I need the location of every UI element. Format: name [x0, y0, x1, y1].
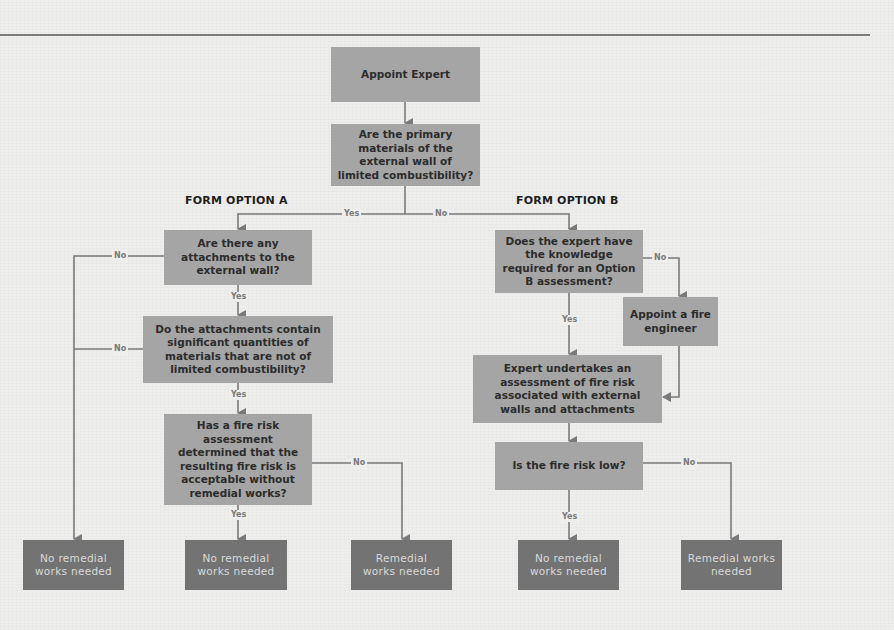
node-label: No remedial works needed — [31, 552, 116, 579]
node-a-fire-risk-assessment: Has a fire risk assessment determined th… — [164, 414, 312, 505]
edge-label-a-assessment-no: No — [351, 458, 367, 468]
edge-label-a-attachments-no: No — [112, 251, 128, 261]
node-label: Appoint a fire engineer — [629, 308, 712, 335]
node-b-outcome-no-remedial: No remedial works needed — [518, 540, 619, 590]
edge-label-b-knowledge-yes: Yes — [560, 315, 579, 325]
node-label: Is the fire risk low? — [512, 459, 625, 473]
node-label: No remedial works needed — [193, 552, 279, 579]
edge-label-b-knowledge-no: No — [652, 253, 668, 263]
node-a-attachments-materials: Do the attachments contain significant q… — [143, 316, 333, 383]
node-primary-materials: Are the primary materials of the externa… — [331, 124, 480, 186]
edge-label-a-attachments-yes: Yes — [229, 292, 248, 302]
node-label: Do the attachments contain significant q… — [149, 323, 327, 377]
form-option-a-header: FORM OPTION A — [185, 194, 288, 207]
node-b-fire-risk-low: Is the fire risk low? — [495, 442, 643, 490]
form-option-b-header: FORM OPTION B — [516, 194, 619, 207]
node-appoint-expert: Appoint Expert — [331, 47, 480, 102]
node-b-outcome-remedial: Remedial works needed — [681, 540, 782, 590]
edge-label-a-assessment-yes: Yes — [229, 510, 248, 520]
node-label: No remedial works needed — [526, 552, 611, 579]
node-a-outcome-no-remedial-1: No remedial works needed — [23, 540, 124, 590]
node-b-expert-knowledge: Does the expert have the knowledge requi… — [495, 230, 643, 293]
node-a-outcome-remedial: Remedial works needed — [351, 540, 452, 590]
node-label: Has a fire risk assessment determined th… — [170, 419, 306, 500]
edge-label-primary-yes: Yes — [342, 209, 361, 219]
node-b-expert-assessment: Expert undertakes an assessment of fire … — [473, 355, 662, 423]
node-label: Remedial works needed — [685, 552, 778, 579]
node-label: Are the primary materials of the externa… — [337, 128, 474, 182]
edge-label-a-materials-no: No — [112, 344, 128, 354]
edge-label-b-risk-no: No — [681, 458, 697, 468]
node-a-attachments: Are there any attachments to the externa… — [164, 230, 312, 285]
node-label: Does the expert have the knowledge requi… — [501, 235, 637, 289]
edge-label-a-materials-yes: Yes — [229, 390, 248, 400]
edge-label-b-risk-yes: Yes — [560, 512, 579, 522]
node-label: Appoint Expert — [361, 68, 450, 82]
node-label: Are there any attachments to the externa… — [178, 237, 298, 278]
node-label: Remedial works needed — [361, 552, 442, 579]
node-b-appoint-fire-engineer: Appoint a fire engineer — [623, 297, 718, 346]
node-a-outcome-no-remedial-2: No remedial works needed — [185, 540, 287, 590]
node-label: Expert undertakes an assessment of fire … — [479, 362, 656, 416]
edge-label-primary-no: No — [433, 209, 449, 219]
